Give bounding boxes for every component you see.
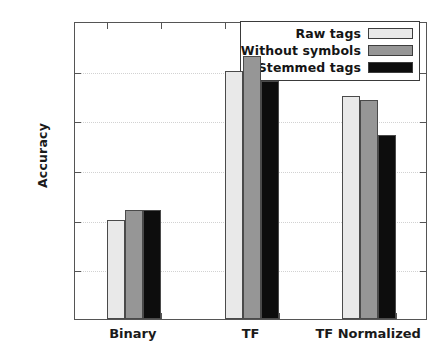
bar bbox=[225, 71, 243, 319]
legend-item: Raw tags bbox=[247, 25, 413, 42]
legend-swatch bbox=[368, 45, 413, 56]
y-tick-mark bbox=[75, 73, 81, 74]
y-tick-mark bbox=[420, 73, 426, 74]
x-tick-mark bbox=[107, 23, 108, 29]
y-tick-mark bbox=[420, 271, 426, 272]
y-tick-mark bbox=[75, 222, 81, 223]
x-tick-label: TF bbox=[242, 326, 260, 341]
bar bbox=[107, 220, 125, 319]
bar bbox=[143, 210, 161, 319]
x-tick-label: Binary bbox=[109, 326, 156, 341]
x-tick-mark bbox=[396, 313, 397, 319]
accuracy-bar-chart: Accuracy 60616263646566 BinaryTFTF Norma… bbox=[0, 0, 447, 361]
x-tick-mark bbox=[225, 23, 226, 29]
chart-legend: Raw tagsWithout symbolsStemmed tags bbox=[240, 21, 420, 81]
y-tick-mark bbox=[75, 271, 81, 272]
y-tick-mark bbox=[75, 122, 81, 123]
y-tick-mark bbox=[420, 172, 426, 173]
y-tick-mark bbox=[420, 222, 426, 223]
x-tick-mark bbox=[279, 313, 280, 319]
bar bbox=[342, 96, 360, 320]
bar bbox=[360, 100, 378, 319]
bar bbox=[261, 81, 279, 319]
x-tick-mark bbox=[161, 23, 162, 29]
y-tick-mark bbox=[420, 122, 426, 123]
legend-item: Stemmed tags bbox=[247, 59, 413, 76]
y-axis-title: Accuracy bbox=[35, 96, 50, 216]
legend-label: Stemmed tags bbox=[258, 60, 361, 75]
bar bbox=[378, 135, 396, 319]
legend-item: Without symbols bbox=[247, 42, 413, 59]
bar bbox=[243, 56, 261, 319]
x-tick-label: TF Normalized bbox=[315, 326, 420, 341]
legend-swatch bbox=[368, 28, 413, 39]
legend-swatch bbox=[368, 62, 413, 73]
x-tick-mark bbox=[161, 313, 162, 319]
y-tick-mark bbox=[75, 172, 81, 173]
legend-label: Raw tags bbox=[295, 26, 361, 41]
bar bbox=[125, 210, 143, 319]
